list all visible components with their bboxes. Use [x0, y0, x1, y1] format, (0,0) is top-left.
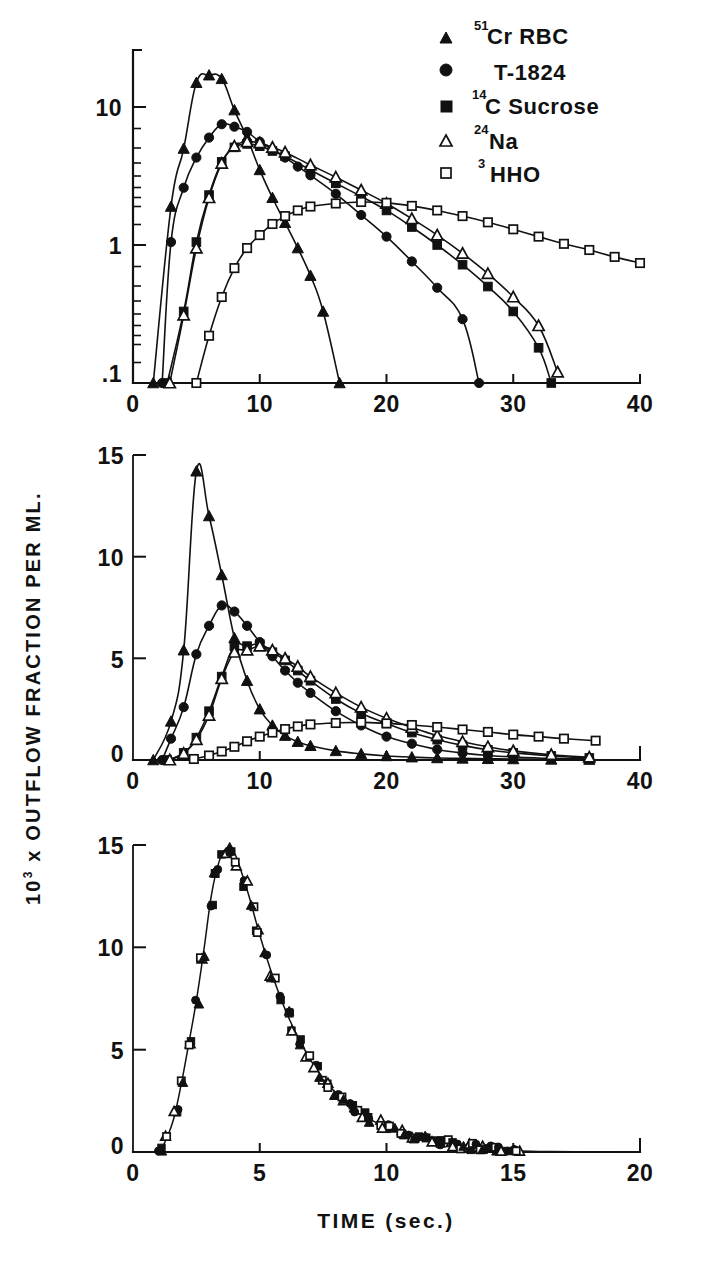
open-square-marker [408, 721, 416, 729]
legend-label-cr-rbc: Cr RBC [487, 24, 569, 49]
open-square-marker [408, 202, 416, 210]
open-square-marker [230, 743, 238, 751]
legend-sup-3: 3 [478, 156, 485, 171]
panel-bottom-series-layer [155, 842, 615, 1155]
filled-square-marker [297, 1036, 304, 1043]
open-triangle-marker [406, 213, 417, 223]
open-square-marker [268, 728, 276, 736]
panel-bottom-datapoints [155, 842, 525, 1155]
legend-item-t1824: T-1824 [440, 60, 566, 85]
filled-circle-marker [192, 153, 201, 162]
filled-circle-marker [192, 996, 200, 1004]
filled-triangle-marker [267, 192, 278, 202]
panel-bottom-ytick-5: 5 [111, 1038, 124, 1064]
filled-circle-marker [204, 621, 213, 630]
open-square-marker [205, 332, 213, 340]
filled-circle-marker [382, 232, 391, 241]
filled-square-marker [433, 241, 442, 250]
filled-triangle-marker [254, 164, 265, 174]
panel-middle-ytick-10: 10 [97, 545, 124, 571]
panel-middle-xtick-30: 30 [500, 768, 527, 794]
panel-middle-ytick-5: 5 [111, 647, 124, 673]
open-square-marker [190, 755, 198, 763]
filled-triangle-icon [440, 32, 452, 43]
panel-bottom-ytick-0: 0 [111, 1133, 124, 1159]
filled-triangle-marker [229, 632, 240, 642]
open-square-marker [186, 1041, 193, 1048]
figure-svg: 51 Cr RBC T-1824 14 C Sucrose 24 Na 3 [0, 0, 703, 1265]
panel-middle-ytick-15: 15 [97, 443, 124, 469]
legend: 51 Cr RBC T-1824 14 C Sucrose 24 Na 3 [440, 18, 599, 187]
legend-sup-24: 24 [474, 122, 489, 137]
filled-square-marker [547, 379, 556, 388]
filled-square-icon [441, 101, 452, 112]
open-square-marker [163, 1133, 170, 1140]
open-triangle-marker [305, 159, 316, 169]
filled-triangle-marker [254, 704, 265, 714]
filled-circle-marker [293, 678, 302, 687]
panel-bottom: 15 10 5 0 0 5 10 15 20 TIME (sec.) [97, 833, 653, 1232]
open-square-marker [560, 734, 568, 742]
filled-circle-marker [166, 734, 175, 743]
open-square-marker [218, 293, 226, 301]
panel-middle-series-layer [148, 464, 600, 765]
open-triangle-marker [356, 184, 367, 194]
filled-circle-marker [357, 210, 366, 219]
filled-circle-marker [422, 1133, 430, 1141]
open-square-marker [433, 723, 441, 731]
open-square-marker [636, 259, 644, 267]
open-square-marker [484, 728, 492, 736]
open-square-marker [433, 206, 441, 214]
legend-label-hho: HHO [490, 162, 541, 187]
series-14c-sucrose [163, 640, 594, 765]
open-triangle-marker [432, 229, 443, 239]
open-square-marker [324, 1084, 331, 1091]
filled-square-marker [228, 848, 235, 855]
open-square-marker [332, 719, 340, 727]
filled-triangle-marker [292, 242, 303, 252]
open-triangle-marker [457, 248, 468, 258]
svg-text:103 x OUTFLOW FRACTION PER ML.: 103 x OUTFLOW FRACTION PER ML. [21, 491, 44, 905]
filled-circle-marker [433, 745, 442, 754]
open-square-marker [192, 379, 200, 387]
panel-top-xtick-40: 40 [627, 391, 654, 417]
filled-triangle-marker [292, 736, 303, 746]
filled-circle-marker [179, 703, 188, 712]
filled-triangle-marker [305, 270, 316, 280]
filled-triangle-marker [216, 569, 227, 579]
panel-bottom-xtick-15: 15 [500, 1160, 527, 1186]
open-square-marker [357, 198, 365, 206]
panel-bottom-xtick-10: 10 [373, 1160, 400, 1186]
series-line [162, 123, 479, 383]
open-square-marker [484, 218, 492, 226]
y-axis-title-exp: 3 [21, 869, 35, 878]
open-square-marker [509, 225, 517, 233]
open-square-marker [591, 736, 599, 744]
open-square-marker [230, 264, 238, 272]
x-axis-title: TIME (sec.) [317, 1209, 454, 1232]
open-square-marker [560, 240, 568, 248]
panel-bottom-ytick-15: 15 [97, 833, 124, 859]
open-square-marker [218, 747, 226, 755]
open-square-marker [205, 751, 213, 759]
open-square-marker [281, 212, 289, 220]
filled-circle-marker [407, 739, 416, 748]
filled-circle-marker [263, 951, 271, 959]
filled-circle-marker [204, 133, 213, 142]
legend-item-cr-rbc: 51 Cr RBC [440, 18, 569, 49]
open-square-marker [294, 722, 302, 730]
open-square-marker [585, 246, 593, 254]
open-square-marker [256, 231, 264, 239]
legend-item-c-sucrose: 14 C Sucrose [441, 87, 599, 119]
filled-triangle-marker [318, 306, 329, 316]
filled-circle-marker [230, 122, 239, 131]
panel-bottom-xtick-20: 20 [627, 1160, 654, 1186]
filled-triangle-marker [165, 201, 176, 211]
panel-middle-y-ticks [133, 455, 146, 658]
legend-label-na: Na [489, 129, 518, 154]
series-3hho [192, 198, 644, 387]
filled-triangle-marker [165, 716, 176, 726]
panel-middle-ytick-0: 0 [111, 741, 124, 767]
panel-top-ytick-10: 10 [95, 95, 122, 121]
open-square-marker [243, 737, 251, 745]
